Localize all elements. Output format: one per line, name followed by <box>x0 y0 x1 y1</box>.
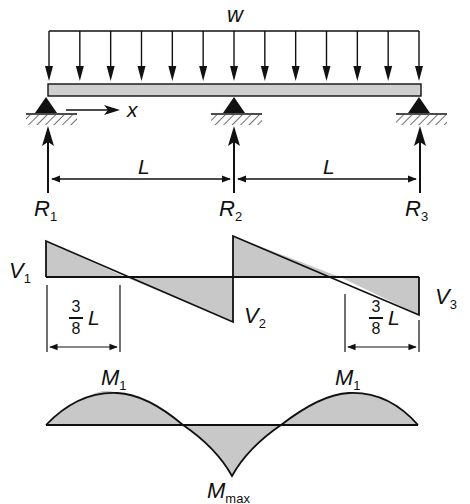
shear-diagram <box>46 236 419 322</box>
beam <box>48 84 421 96</box>
moment-M1-right-label: M1 <box>335 367 361 389</box>
load-arrows <box>45 31 423 81</box>
reaction-R3-label: R3 <box>405 198 428 220</box>
moment-Mmax-label: Mmax <box>207 480 250 502</box>
beam-diagram <box>0 0 470 504</box>
dimension-3-8-L-right: 38 L <box>369 299 400 337</box>
shear-V3-label: V3 <box>435 286 457 308</box>
support-right <box>396 97 447 125</box>
span2-label: L <box>323 156 335 177</box>
span1-label: L <box>138 156 150 177</box>
support-left <box>26 97 77 125</box>
support-middle <box>211 97 262 125</box>
reaction-arrows <box>42 126 426 193</box>
distributed-load <box>45 31 423 81</box>
shear-V2-label: V2 <box>244 305 266 327</box>
load-label-w: w <box>227 4 243 26</box>
reaction-R1-label: R1 <box>34 198 57 220</box>
x-axis-label: x <box>127 99 138 120</box>
dimension-3-8-L-left: 38 L <box>69 299 100 337</box>
shear-V1-label: V1 <box>9 260 31 282</box>
moment-diagram <box>46 391 418 476</box>
moment-M1-left-label: M1 <box>101 367 127 389</box>
reaction-R2-label: R2 <box>219 198 242 220</box>
